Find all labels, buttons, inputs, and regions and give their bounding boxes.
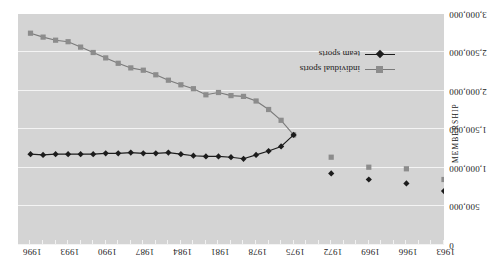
square-marker — [191, 86, 196, 91]
square-marker — [266, 107, 271, 112]
square-marker — [228, 93, 233, 98]
legend-label-team-sports: team sports — [319, 50, 360, 60]
legend-item-team-sports: team sports — [277, 47, 395, 62]
diamond-marker — [215, 153, 221, 159]
diamond-marker — [328, 170, 334, 176]
x-axis-label: 1975 — [286, 247, 305, 257]
square-marker — [441, 177, 444, 182]
x-axis-label: 1969 — [361, 247, 380, 257]
y-axis-label: 1,000,000 — [449, 164, 489, 174]
diamond-marker-icon — [376, 50, 384, 58]
square-marker — [128, 65, 133, 70]
series-line — [31, 33, 294, 135]
x-axis-label: 1996 — [23, 247, 42, 257]
x-axis-label: 1990 — [98, 247, 117, 257]
diamond-marker — [165, 150, 171, 156]
square-marker — [28, 31, 33, 36]
chart-figure: 1963196619691972197519781981198419871990… — [0, 0, 495, 259]
diamond-marker — [178, 151, 184, 157]
x-axis-label: 1987 — [135, 247, 154, 257]
square-marker — [78, 45, 83, 50]
x-axis-label: 1972 — [323, 247, 342, 257]
square-marker — [366, 165, 371, 170]
diamond-marker — [27, 151, 33, 157]
diamond-marker — [240, 156, 246, 162]
square-marker — [329, 155, 334, 160]
diamond-marker — [90, 151, 96, 157]
x-axis-label: 1984 — [173, 247, 192, 257]
diamond-marker — [228, 154, 234, 160]
diamond-marker — [366, 177, 372, 183]
y-axis-label: 2,500,000 — [449, 49, 489, 59]
diamond-marker — [190, 153, 196, 159]
legend-label-individual-sports: individual sports — [300, 65, 360, 75]
square-marker — [178, 82, 183, 87]
diamond-marker — [103, 150, 109, 156]
diamond-marker — [40, 152, 46, 158]
diamond-marker — [65, 151, 71, 157]
square-marker — [153, 72, 158, 77]
square-marker — [91, 50, 96, 55]
diamond-marker — [253, 152, 259, 158]
series-team-sports — [27, 132, 444, 194]
square-marker — [41, 35, 46, 40]
legend-item-individual-sports: individual sports — [277, 62, 395, 77]
square-marker — [141, 68, 146, 73]
square-marker — [203, 92, 208, 97]
diamond-marker — [53, 151, 59, 157]
square-marker — [241, 94, 246, 99]
y-axis-title: MEMBERSHIP — [451, 103, 460, 163]
diamond-marker — [153, 150, 159, 156]
square-marker-icon — [376, 66, 383, 73]
square-marker — [404, 166, 409, 171]
diamond-marker — [266, 148, 272, 154]
diamond-marker — [78, 151, 84, 157]
x-axis-label: 1978 — [248, 247, 267, 257]
y-axis-label: 500,000 — [449, 203, 489, 213]
diamond-marker — [403, 180, 409, 186]
square-marker — [279, 118, 284, 123]
y-axis-label: 2,000,000 — [449, 87, 489, 97]
square-marker — [254, 98, 259, 103]
square-marker — [53, 38, 58, 43]
diamond-marker — [140, 150, 146, 156]
diamond-marker — [128, 150, 134, 156]
square-marker — [103, 55, 108, 60]
legend-swatch-team-sports — [365, 49, 395, 61]
diamond-marker — [203, 153, 209, 159]
square-marker — [66, 39, 71, 44]
x-axis-label: 1993 — [60, 247, 79, 257]
diamond-marker — [441, 188, 444, 194]
x-axis-label: 1966 — [399, 247, 418, 257]
y-axis-label: 0 — [449, 241, 489, 251]
chart-legend: individual sports team sports — [277, 47, 395, 77]
square-marker — [166, 78, 171, 83]
square-marker — [216, 90, 221, 95]
y-axis-label: 3,000,000 — [449, 10, 489, 20]
diamond-marker — [115, 150, 121, 156]
x-axis-label: 1981 — [211, 247, 230, 257]
legend-swatch-individual-sports — [365, 64, 395, 76]
square-marker — [116, 61, 121, 66]
